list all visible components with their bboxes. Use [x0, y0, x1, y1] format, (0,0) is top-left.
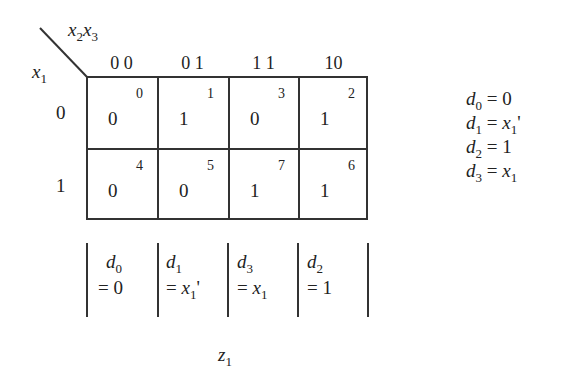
mux-input-d1: d1 = x1' [166, 250, 236, 302]
kmap-cell-m5: 0 5 [159, 150, 229, 221]
minterm-index: 1 [207, 86, 214, 102]
cell-value: 1 [179, 108, 189, 130]
column-header-01: 0 1 [157, 53, 228, 74]
mux-separator [86, 243, 88, 317]
cell-value: 1 [250, 180, 260, 202]
minterm-index: 5 [207, 158, 214, 174]
karnaugh-map-grid: 0 0 1 1 0 3 1 2 0 4 0 5 1 7 1 6 [86, 76, 368, 220]
kmap-cell-m6: 1 6 [300, 150, 370, 221]
cell-value: 1 [320, 108, 330, 130]
equation-d1: d1 = x1' [466, 112, 521, 136]
mux-input-equations: d0 = 0 d1 = x1' d2 = 1 d3 = x1 [466, 88, 521, 184]
mux-input-d2: d2 = 1 [307, 250, 377, 300]
kmap-cell-m2: 1 2 [300, 78, 370, 149]
kmap-cell-m7: 1 7 [230, 150, 300, 221]
cell-value: 0 [179, 180, 189, 202]
equation-d0: d0 = 0 [466, 88, 521, 112]
cell-value: 1 [320, 180, 330, 202]
minterm-index: 4 [136, 158, 143, 174]
minterm-index: 0 [136, 86, 143, 102]
minterm-index: 6 [348, 158, 355, 174]
equation-d3: d3 = x1 [466, 160, 521, 184]
row-variable-label: x1 [32, 62, 47, 81]
cell-value: 0 [108, 180, 118, 202]
column-header-11: 1 1 [228, 53, 299, 74]
minterm-index: 3 [278, 86, 285, 102]
minterm-index: 7 [278, 158, 285, 174]
kmap-cell-m4: 0 4 [88, 150, 158, 221]
mux-input-d3: d3 = x1 [237, 250, 307, 302]
kmap-cell-m3: 0 3 [230, 78, 300, 149]
row-header-1: 1 [56, 176, 66, 195]
output-label: z1 [218, 345, 232, 364]
kmap-cell-m0: 0 0 [88, 78, 158, 149]
column-header-00: 0 0 [86, 53, 157, 74]
minterm-index: 2 [348, 86, 355, 102]
cell-value: 0 [108, 108, 118, 130]
kmap-cell-m1: 1 1 [159, 78, 229, 149]
row-header-0: 0 [56, 103, 66, 122]
mux-input-d0: d0 = 0 [98, 250, 168, 300]
cell-value: 0 [250, 108, 260, 130]
column-header-10: 10 [298, 53, 369, 74]
equation-d2: d2 = 1 [466, 136, 521, 160]
column-variable-label: x2x3 [68, 20, 98, 39]
